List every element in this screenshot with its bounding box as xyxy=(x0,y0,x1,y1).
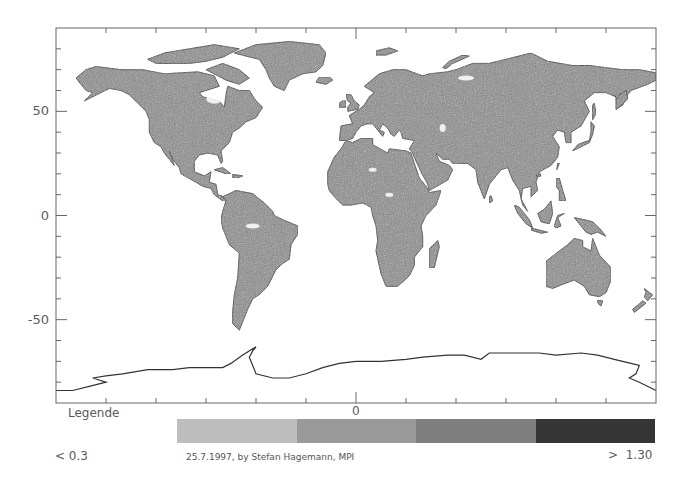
legend-min-label: < 0.3 xyxy=(55,449,88,463)
borneo-landmass xyxy=(538,201,553,224)
greenland-landmass xyxy=(234,42,326,91)
lake-gap xyxy=(385,193,393,197)
lake-gap xyxy=(458,76,474,81)
legend-title: Legende xyxy=(68,406,119,420)
svalbard-landmass xyxy=(376,48,398,55)
australia-landmass xyxy=(546,238,611,296)
lake-gap xyxy=(206,94,222,104)
java-landmass xyxy=(531,228,548,233)
lake-gap xyxy=(246,223,260,228)
antarctica-coast xyxy=(56,347,656,391)
legend-center-label: 0 xyxy=(352,404,360,418)
y-axis-label: 50 xyxy=(9,103,49,118)
north-america-landmass xyxy=(76,67,263,201)
sri-lanka-landmass xyxy=(489,196,492,203)
south-america-landmass xyxy=(221,191,298,331)
legend-class-2 xyxy=(297,419,417,443)
antarctica-outline xyxy=(56,347,656,391)
britain-landmass xyxy=(346,95,359,112)
philippines-landmass xyxy=(556,178,566,201)
legend-class-1 xyxy=(177,419,297,443)
legend-class-4 xyxy=(536,419,656,443)
y-axis-label: 0 xyxy=(9,208,49,223)
sakhalin-landmass xyxy=(593,103,596,120)
legend-color-bar xyxy=(177,419,655,443)
sumatra-landmass xyxy=(514,205,532,228)
cuba-landmass xyxy=(214,168,231,174)
tasmania-landmass xyxy=(598,300,603,306)
lake-gap xyxy=(369,168,377,172)
new-guinea-landmass xyxy=(574,218,606,237)
hispaniola-landmass xyxy=(233,174,243,178)
iceland-landmass xyxy=(316,77,333,84)
lake-gap xyxy=(440,124,446,132)
ireland-landmass xyxy=(339,101,346,107)
sulawesi-landmass xyxy=(554,213,564,228)
nz-south-landmass xyxy=(633,301,646,313)
credit-text: 25.7.1997, by Stefan Hagemann, MPI xyxy=(186,452,354,462)
canadian-arctic-landmass xyxy=(148,45,240,64)
legend-class-3 xyxy=(416,419,536,443)
y-axis-label: -50 xyxy=(9,312,49,327)
legend-max-label: > 1.30 xyxy=(608,448,652,462)
taiwan-landmass xyxy=(557,163,560,169)
land-masses xyxy=(76,42,656,331)
hainan-landmass xyxy=(537,174,541,177)
madagascar-landmass xyxy=(429,241,439,268)
